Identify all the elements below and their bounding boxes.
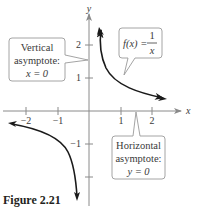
x-tick-label: −2 [21, 115, 32, 126]
callout-line: Vertical [21, 42, 54, 53]
curve-left-branch [12, 124, 77, 197]
callout-line: asymptote: [14, 55, 60, 66]
y-axis-label: y [86, 3, 92, 14]
function-numerator: 1 [149, 30, 154, 41]
callout-line: Horizontal [116, 140, 161, 151]
callout-line: y = 0 [126, 166, 150, 177]
y-tick-label: 2 [76, 39, 81, 50]
x-axis: −2 −1 1 2 x [3, 105, 191, 126]
x-tick-label: −1 [53, 115, 64, 126]
y-axis: 2 1 −1 y [70, 3, 93, 206]
callout-line: asymptote: [115, 153, 161, 164]
callout-line: x = 0 [25, 68, 49, 79]
x-axis-label: x [185, 105, 191, 116]
y-tick-label: 1 [76, 72, 81, 83]
figure-caption: Figure 2.21 [3, 193, 61, 208]
figure-graph: −2 −1 1 2 x 2 1 −1 y Vertical asymptote:… [0, 0, 200, 215]
x-tick-label: 2 [150, 115, 155, 126]
y-tick-label: −1 [70, 138, 81, 149]
function-callout: f(x) = 1 x [119, 28, 162, 75]
function-denominator: x [149, 45, 155, 56]
x-tick-label: 1 [119, 115, 124, 126]
function-lhs: f(x) = [123, 38, 147, 50]
